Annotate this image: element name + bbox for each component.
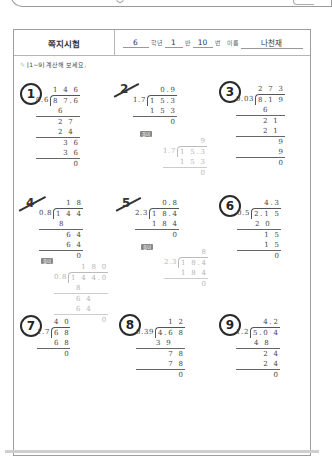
number-field[interactable]: 10 [193,38,213,48]
divisor: 0.8 [54,272,68,282]
problem-8: 1 2 0.394.6 8 3 9 7 8 7 8 0 [136,317,185,380]
dividend: 1 5.3 [177,146,207,157]
class-field[interactable]: 1 [165,38,183,48]
problem-3: 2 7 3 0.038.1 9 6 2 1 2 1 9 9 0 [236,84,285,168]
solution-badge: 풀이 [141,244,153,250]
dividend: 1 5.3 [147,95,177,106]
step: 3 6 [36,148,80,159]
step: 6 4 [54,304,108,315]
step: 1 8 4 [164,268,208,279]
problem-5-correction: 8 2.31 8.4 1 8 4 0 [164,247,208,289]
step: 0 [136,370,185,380]
bottom-divider [5,450,319,453]
step: 1 8 4 [135,219,179,230]
instruction-text: [1~9] 계산해 보세요. [27,61,86,68]
step: 1 5 3 [133,106,177,117]
quotient: 8 [164,247,208,257]
instruction: ✎[1~9] 계산해 보세요. [20,60,86,69]
solution-badge: 풀이 [41,258,53,264]
grade-field[interactable]: 6 [123,38,149,48]
problem-2: 0.9 1.71 5.3 1 5 3 0 [133,85,177,127]
dividend: 5.0 4 [250,327,280,338]
dividend: 1 4 4 [53,208,83,219]
step: 2 4 [36,127,80,138]
dividend: 2.1 5 [251,208,281,219]
quotient: 1 2 [136,317,185,327]
divisor: 0.39 [136,327,155,337]
quotient: 4 0 [37,317,70,327]
step: 8 [54,283,108,294]
pencil-icon: ✎ [20,61,25,68]
solution-badge: 풀이 [140,131,152,137]
problem-9: 4.2 1.25.0 4 4 8 2 4 2 4 0 [236,317,280,380]
divisor: 0.5 [237,208,251,218]
divisor: 0.6 [36,95,50,105]
step: 0 [236,158,285,168]
dividend: 1 4 4.0 [68,272,108,283]
step: 0 [135,230,179,240]
quotient: 9 [163,136,207,146]
problem-7: 4 0 1.76 8 6 8 0 [37,317,70,359]
number-label: 번 [215,38,221,47]
step: 0 [36,159,80,169]
quotient: 4.2 [236,317,280,327]
step: 7 8 [136,349,185,359]
step: 4 8 [236,338,280,349]
dividend: 8.1 9 [255,94,285,105]
step: 2 4 [236,359,280,370]
step: 0 [164,279,208,289]
step: 1 5 3 [163,157,207,168]
student-info: 6 학년 1 반 10 번 이름 나천재 [115,30,310,55]
step: 0 [163,168,207,178]
step: 2 1 [236,116,285,126]
quotient: 1 8 [39,198,83,208]
dividend: 1 8.4 [149,208,179,219]
class-label: 반 [185,38,191,47]
step: 3 9 [136,338,185,349]
step: 6 4 [39,240,83,251]
divisor: 1.7 [163,146,177,156]
problem-4-correction: 1 8 0 0.81 4 4.0 8 6 4 6 4 0 [54,262,108,325]
quotient: 0.9 [133,85,177,95]
problem-1: 1 4 6 0.68 7.6 6 2 7 2 4 3 6 3 6 0 [36,85,80,169]
divisor: 0.03 [236,94,255,104]
quiz-title: 쪽지시험 [14,30,115,55]
name-field[interactable]: 나천재 [241,37,303,49]
step: 6 4 [39,230,83,240]
dividend: 8 7.6 [50,95,80,106]
step: 9 [236,137,285,147]
top-decoration-bar [10,0,332,7]
step: 7 8 [136,359,185,370]
name-label: 이름 [227,38,239,47]
step: 2 4 [236,349,280,359]
divisor: 2.3 [164,257,178,267]
step: 0 [237,251,281,261]
step: 1 5 [237,230,281,240]
quotient: 0.8 [135,198,179,208]
step: 2 7 [36,117,80,127]
divisor: 1.7 [133,95,147,105]
step: 0 [133,117,177,127]
quotient: 4.3 [237,198,281,208]
quiz-header: 쪽지시험 6 학년 1 반 10 번 이름 나천재 [14,30,310,56]
problem-5: 0.8 2.31 8.4 1 8 4 0 [135,198,179,240]
quotient: 1 8 0 [54,262,108,272]
quotient: 2 7 3 [236,84,285,94]
step: 2 1 [236,126,285,137]
quotient: 1 4 6 [36,85,80,95]
grade-label: 학년 [151,38,163,47]
divisor: 2.3 [135,208,149,218]
divisor: 1.2 [236,327,250,337]
dividend: 1 8.4 [178,257,208,268]
step: 2 0 [237,219,281,230]
top-right-decoration [293,0,314,5]
step: 0 [37,349,70,359]
step: 1 5 [237,240,281,251]
quiz-sheet: 쪽지시험 6 학년 1 반 10 번 이름 나천재 ✎[1~9] 계산해 보세요… [13,29,311,456]
divisor: 1.7 [37,327,51,337]
problem-6: 4.3 0.52.1 5 2 0 1 5 1 5 0 [237,198,281,261]
step: 6 4 [54,294,108,304]
step: 8 [39,219,83,230]
decoration-knob [116,0,124,3]
step: 6 8 [37,338,70,349]
